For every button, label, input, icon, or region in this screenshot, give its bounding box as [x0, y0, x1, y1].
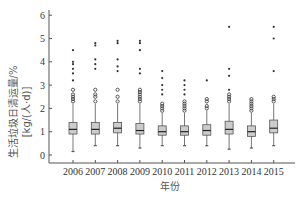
box-2008	[114, 40, 122, 146]
outlier-circle	[94, 88, 97, 91]
y-axis-title-group: 生活垃圾日清运量/%	[7, 66, 19, 159]
outlier-star	[161, 84, 163, 86]
box-2013	[225, 26, 233, 149]
outlier-star	[161, 77, 163, 79]
outlier-star	[94, 68, 96, 70]
outlier-star	[72, 72, 74, 74]
outlier-star	[94, 44, 96, 46]
outlier-star	[94, 42, 96, 44]
outlier-star	[94, 63, 96, 65]
outlier-star	[117, 70, 119, 72]
y-tick-label: 5	[40, 33, 45, 44]
box	[91, 122, 99, 134]
outlier-star	[228, 89, 230, 91]
x-tick-label: 2006	[63, 166, 83, 177]
box	[225, 121, 233, 134]
y-tick-label: 0	[40, 150, 45, 161]
x-tick-label: 2007	[85, 166, 105, 177]
outlier-star	[273, 26, 275, 28]
outlier-star	[139, 68, 141, 70]
outlier-circle	[94, 100, 97, 103]
outlier-star	[72, 63, 74, 65]
outlier-star	[273, 37, 275, 39]
box	[181, 126, 189, 135]
box	[158, 126, 166, 135]
box-series	[69, 26, 278, 152]
x-tick-label: 2013	[219, 166, 239, 177]
outlier-star	[228, 68, 230, 70]
box-2006	[69, 49, 77, 151]
outlier-star	[183, 79, 185, 81]
outlier-star	[183, 84, 185, 86]
y-tick-label: 4	[40, 56, 45, 67]
outlier-star	[161, 93, 163, 95]
outlier-circle	[116, 88, 119, 91]
outlier-star	[94, 58, 96, 60]
outlier-star	[72, 61, 74, 63]
y-tick-label: 6	[40, 10, 45, 21]
outlier-star	[139, 49, 141, 51]
box	[136, 124, 144, 134]
y-tick-label: 2	[40, 103, 45, 114]
outlier-star	[206, 79, 208, 81]
y-axis-unit: [kg/(人·d)]	[21, 87, 32, 138]
box	[270, 120, 278, 133]
y-axis: 0123456	[40, 10, 52, 163]
x-tick-label: 2012	[197, 166, 217, 177]
outlier-star	[183, 93, 185, 95]
outlier-star	[72, 68, 74, 70]
x-tick-label: 2008	[108, 166, 128, 177]
box-2015	[270, 26, 278, 146]
box-2007	[91, 42, 99, 146]
outlier-circle	[71, 88, 74, 91]
x-axis-title: 年份	[160, 180, 180, 192]
outlier-star	[117, 40, 119, 42]
outlier-star	[139, 40, 141, 42]
x-tick-label: 2014	[241, 166, 261, 177]
x-tick-label: 2010	[152, 166, 172, 177]
x-axis: 2006200720082009201020112012201320142015	[49, 160, 295, 177]
box-2011	[181, 79, 189, 145]
outlier-star	[139, 72, 141, 74]
outlier-star	[161, 89, 163, 91]
y-axis-unit-group: [kg/(人·d)]	[21, 87, 32, 138]
outlier-star	[183, 89, 185, 91]
outlier-star	[72, 79, 74, 81]
outlier-circle	[116, 95, 119, 98]
y-tick-label: 1	[40, 126, 45, 137]
box-2012	[203, 79, 211, 145]
outlier-star	[139, 42, 141, 44]
outlier-star	[273, 70, 275, 72]
box	[69, 122, 77, 134]
x-tick-label: 2015	[264, 166, 284, 177]
box-2010	[158, 70, 166, 146]
outlier-star	[228, 26, 230, 28]
outlier-star	[228, 75, 230, 77]
outlier-star	[117, 65, 119, 67]
box-2009	[136, 40, 144, 148]
box-2014	[247, 97, 255, 148]
outlier-circle	[116, 100, 119, 103]
box-plot-chart: 0123456 20062007200820092010201120122013…	[0, 0, 302, 199]
outlier-star	[72, 49, 74, 51]
y-tick-label: 3	[40, 80, 45, 91]
outlier-star	[117, 58, 119, 60]
outlier-star	[117, 42, 119, 44]
outlier-star	[161, 70, 163, 72]
y-axis-title: 生活垃圾日清运量/%	[7, 66, 19, 159]
x-tick-label: 2011	[175, 166, 195, 177]
x-tick-label: 2009	[130, 166, 150, 177]
